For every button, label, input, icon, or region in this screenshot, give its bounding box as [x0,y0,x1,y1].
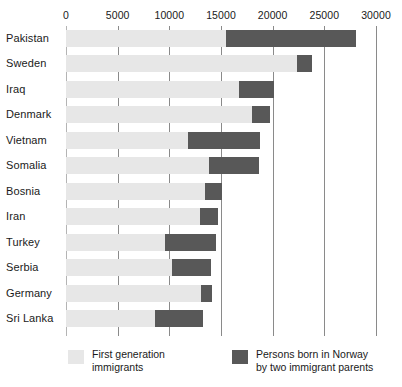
legend-label-line1: Persons born in Norway [256,348,368,361]
bar-segment-first-generation [66,106,252,123]
stacked-bar [0,183,402,200]
stacked-bar [0,132,402,149]
bar-segment-first-generation [66,310,155,327]
bar-segment-norway-born [172,259,211,276]
stacked-bar [0,55,402,72]
bar-row: Iraq [0,77,402,102]
bar-rows: PakistanSwedenIraqDenmarkVietnamSomaliaB… [0,26,402,336]
bar-segment-norway-born [252,106,270,123]
stacked-bar-chart: 050001000015000200002500030000 PakistanS… [0,0,402,387]
stacked-bar [0,81,402,98]
bar-segment-first-generation [66,81,239,98]
bar-segment-first-generation [66,285,201,302]
bar-row: Somalia [0,153,402,178]
bar-segment-norway-born [200,208,218,225]
bar-segment-first-generation [66,30,226,47]
x-axis-tick-label: 10000 [154,8,184,22]
bar-row: Pakistan [0,26,402,51]
x-axis-tick-label: 5000 [106,8,130,22]
bar-segment-first-generation [66,208,200,225]
bar-segment-norway-born [188,132,260,149]
bar-row: Iran [0,204,402,229]
bar-segment-norway-born [297,55,312,72]
x-axis-tick-label: 0 [63,8,69,22]
stacked-bar [0,310,402,327]
plot-area: PakistanSwedenIraqDenmarkVietnamSomaliaB… [0,26,402,336]
x-axis-tick-labels: 050001000015000200002500030000 [0,8,402,22]
stacked-bar [0,106,402,123]
bar-segment-norway-born [201,285,212,302]
stacked-bar [0,259,402,276]
bar-segment-norway-born [239,81,274,98]
stacked-bar [0,30,402,47]
legend-label-line2: by two immigrant parents [256,361,373,374]
bar-segment-first-generation [66,234,165,251]
bar-segment-norway-born [165,234,216,251]
chart-legend: First generationimmigrantsPersons born i… [0,348,402,387]
legend-label-line2: immigrants [92,361,143,374]
legend-swatch-icon [68,350,84,364]
bar-row: Turkey [0,230,402,255]
bar-segment-first-generation [66,259,172,276]
stacked-bar [0,157,402,174]
bar-row: Germany [0,281,402,306]
bar-segment-first-generation [66,55,297,72]
x-axis-tick-label: 15000 [206,8,236,22]
bar-row: Sweden [0,51,402,76]
stacked-bar [0,234,402,251]
bar-segment-norway-born [155,310,203,327]
bar-row: Bosnia [0,179,402,204]
bar-row: Vietnam [0,128,402,153]
bar-row: Denmark [0,102,402,127]
stacked-bar [0,208,402,225]
bar-row: Sri Lanka [0,306,402,331]
legend-label-line1: First generation [92,348,165,361]
bar-segment-first-generation [66,132,188,149]
x-axis-tick-label: 30000 [361,8,391,22]
stacked-bar [0,285,402,302]
bar-row: Serbia [0,255,402,280]
bar-segment-first-generation [66,157,209,174]
bar-segment-first-generation [66,183,205,200]
x-axis-tick-label: 25000 [309,8,339,22]
bar-segment-norway-born [205,183,222,200]
bar-segment-norway-born [226,30,356,47]
x-axis-tick-label: 20000 [258,8,288,22]
bar-segment-norway-born [209,157,259,174]
legend-swatch-icon [232,350,248,364]
